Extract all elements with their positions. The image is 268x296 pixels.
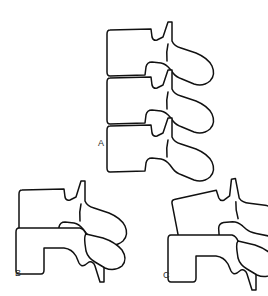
- panel-a-group: [107, 22, 214, 181]
- panel-b-group: [16, 181, 127, 282]
- panel-label-c: C: [163, 271, 170, 280]
- panel-c-group: [168, 170, 268, 290]
- figure-root: A B C: [0, 0, 268, 296]
- panel-c-vertebra-2: [168, 235, 268, 290]
- panel-label-a: A: [98, 139, 104, 148]
- panel-a-vertebra-1: [107, 22, 214, 85]
- panel-label-b: B: [15, 269, 21, 278]
- vertebrae-diagram: [0, 0, 268, 296]
